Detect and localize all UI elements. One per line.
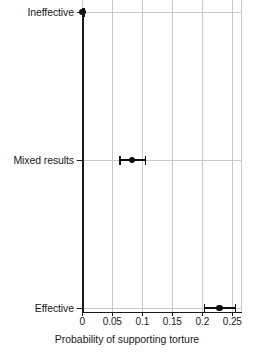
x-tick-label: 0.1: [135, 316, 149, 328]
x-tick-label: 0: [80, 316, 85, 328]
x-tick-mark: [142, 312, 143, 316]
y-tick-mark: [77, 12, 83, 13]
gridline-horizontal: [76, 160, 242, 161]
x-tick-label: 0.05: [103, 316, 122, 328]
gridline-vertical: [232, 0, 233, 312]
gridline-horizontal: [76, 12, 242, 13]
x-tick-label: 0.15: [163, 316, 182, 328]
y-axis-category-label: Mixed results: [13, 155, 74, 166]
x-tick-label: 0.25: [223, 316, 242, 328]
x-tick-mark: [172, 312, 173, 316]
y-axis-category-label: Effective: [35, 303, 74, 314]
zero-reference-line: [82, 12, 84, 312]
plot-area: [82, 0, 242, 312]
gridline-vertical: [172, 0, 173, 312]
x-tick-mark: [232, 312, 233, 316]
dot-and-whisker-plot: 00.050.10.150.20.25 IneffectiveMixed res…: [0, 0, 254, 362]
gridline-vertical: [142, 0, 143, 312]
y-axis-category-label: Ineffective: [27, 7, 74, 18]
gridline-vertical: [202, 0, 203, 312]
x-tick-mark: [82, 312, 83, 316]
estimate-point: [216, 305, 222, 311]
confidence-interval-cap: [119, 156, 120, 165]
x-axis-title: Probability of supporting torture: [0, 333, 254, 346]
x-tick-mark: [202, 312, 203, 316]
x-axis-line: [82, 312, 242, 313]
y-axis-labels: IneffectiveMixed resultsEffective: [0, 0, 74, 362]
estimate-point: [129, 157, 135, 163]
gridline-vertical: [241, 0, 242, 312]
y-tick-mark: [77, 160, 83, 161]
x-tick-label: 0.2: [195, 316, 209, 328]
x-tick-mark: [112, 312, 113, 316]
confidence-interval-cap: [145, 156, 146, 165]
gridline-vertical: [112, 0, 113, 312]
y-tick-mark: [77, 308, 83, 309]
